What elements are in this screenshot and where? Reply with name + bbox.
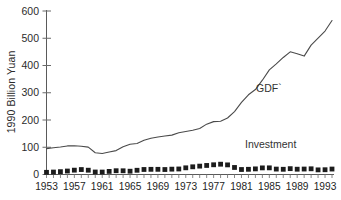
y-tick-label: 600 [21, 5, 39, 17]
investment-data-point [149, 167, 154, 172]
x-tick-label: 1961 [91, 181, 114, 192]
y-axis-group: 0100200300400500600 1990 Billion Yuan [5, 5, 51, 181]
y-tick-label: 500 [21, 32, 39, 44]
gdp-series-label: GDF` [256, 82, 282, 94]
investment-data-point [169, 167, 174, 172]
chart-canvas: 0100200300400500600 1990 Billion Yuan 19… [0, 0, 341, 200]
investment-data-point [100, 170, 105, 175]
investment-data-point [44, 170, 49, 175]
x-tick-label: 1993 [314, 181, 337, 192]
investment-data-point [204, 163, 209, 168]
investment-data-point [183, 165, 188, 170]
investment-data-point [65, 169, 70, 174]
investment-data-point [107, 169, 112, 174]
investment-data-point [190, 164, 195, 169]
y-tick-label: 400 [21, 59, 39, 71]
investment-data-point [309, 166, 314, 171]
investment-data-point [225, 162, 230, 167]
investment-data-point [302, 167, 307, 172]
investment-data-point [58, 169, 63, 174]
investment-data-point [211, 162, 216, 167]
investment-data-point [114, 168, 119, 173]
investment-data-point [86, 168, 91, 173]
investment-data-point [232, 165, 237, 170]
investment-data-point [156, 167, 161, 172]
x-tick-label: 1977 [202, 181, 225, 192]
investment-data-point [162, 167, 167, 172]
investment-data-point [267, 165, 272, 170]
x-tick-label: 1953 [35, 181, 58, 192]
investment-data-point [218, 162, 223, 167]
x-tick-label: 1965 [119, 181, 142, 192]
plot-area [44, 21, 334, 175]
x-tick-label: 1981 [230, 181, 253, 192]
investment-data-point [121, 168, 126, 173]
investment-data-point [260, 165, 265, 170]
investment-marker-series [44, 162, 334, 175]
x-tick-label: 1969 [147, 181, 170, 192]
investment-data-point [323, 167, 328, 172]
x-tick-label: 1985 [258, 181, 281, 192]
investment-data-point [197, 164, 202, 169]
gdp-line-series [47, 21, 333, 154]
economic-line-chart: 0100200300400500600 1990 Billion Yuan 19… [0, 0, 341, 200]
x-axis-minor-ticks [47, 175, 333, 179]
investment-data-point [253, 166, 258, 171]
y-tick-label: 200 [21, 114, 39, 126]
investment-data-point [330, 167, 335, 172]
y-tick-label: 0 [33, 168, 39, 180]
investment-data-point [72, 168, 77, 173]
x-tick-label: 1973 [174, 181, 197, 192]
investment-data-point [281, 167, 286, 172]
investment-data-point [142, 167, 147, 172]
y-axis-title: 1990 Billion Yuan [5, 51, 17, 134]
investment-data-point [128, 169, 133, 174]
y-tick-label: 300 [21, 86, 39, 98]
investment-data-point [316, 167, 321, 172]
investment-data-point [135, 168, 140, 173]
investment-data-point [239, 167, 244, 172]
investment-data-point [93, 170, 98, 175]
investment-data-point [274, 167, 279, 172]
investment-series-label: Investment [245, 138, 296, 150]
investment-data-point [51, 170, 56, 175]
x-axis-tick-labels: 1953195719611965196919731977198119851989… [35, 181, 337, 192]
y-tick-label: 100 [21, 141, 39, 153]
investment-data-point [295, 167, 300, 172]
investment-data-point [288, 166, 293, 171]
investment-data-point [176, 167, 181, 172]
y-axis-tick-labels: 0100200300400500600 [21, 5, 39, 181]
x-axis-group: 1953195719611965196919731977198119851989… [35, 175, 337, 193]
x-tick-label: 1957 [63, 181, 86, 192]
investment-data-point [246, 167, 251, 172]
investment-data-point [79, 167, 84, 172]
x-tick-label: 1989 [286, 181, 309, 192]
